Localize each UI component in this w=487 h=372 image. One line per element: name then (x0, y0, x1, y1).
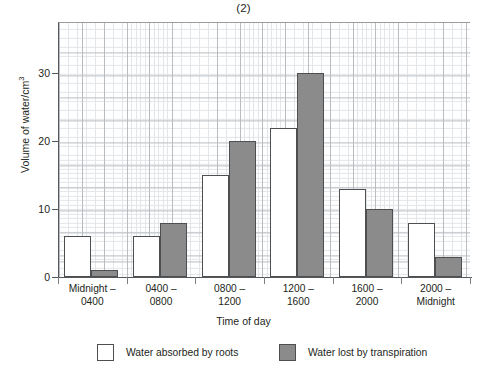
y-axis-tick (52, 209, 59, 210)
x-axis-tick (401, 277, 402, 284)
x-axis-tick (470, 277, 471, 284)
bar-absorbed (202, 175, 229, 277)
y-axis-tick-label: 0 (20, 272, 50, 282)
bar-transpired (435, 257, 462, 277)
bar-transpired (297, 73, 324, 277)
chart-legend: Water absorbed by rootsWater lost by tra… (0, 341, 487, 365)
bar-absorbed (339, 189, 366, 277)
x-axis-category-label: 2000 –Midnight (392, 283, 480, 308)
bar-chart-figure: (2) 0102030 Volume of water/cm3 Time of … (0, 0, 487, 372)
x-axis-tick (264, 277, 265, 284)
legend-swatch-transpired (279, 344, 296, 361)
y-axis-title-text: Volume of water/cm (19, 81, 31, 173)
legend-swatch-absorbed (97, 344, 114, 361)
bar-transpired (160, 223, 187, 277)
x-axis-tick (333, 277, 334, 284)
x-axis-line (58, 277, 472, 278)
bar-transpired (366, 209, 393, 277)
x-axis-tick (58, 277, 59, 284)
legend-item: Water lost by transpiration (279, 341, 427, 363)
bar-transpired (91, 270, 118, 277)
x-axis-title: Time of day (0, 315, 487, 327)
x-axis-category-label-line: 2000 – (392, 283, 480, 296)
bar-transpired (229, 141, 256, 277)
x-axis-tick (127, 277, 128, 284)
bar-absorbed (64, 236, 91, 277)
bar-absorbed (408, 223, 435, 277)
y-axis-tick (52, 141, 59, 142)
legend-item: Water absorbed by roots (97, 341, 238, 363)
legend-label: Water absorbed by roots (126, 347, 238, 358)
legend-label: Water lost by transpiration (308, 347, 427, 358)
bar-absorbed (270, 128, 297, 277)
y-axis-title: Volume of water/cm3 (17, 25, 31, 225)
bar-absorbed (133, 236, 160, 277)
y-axis-tick (52, 73, 59, 74)
x-axis-category-label-line: Midnight (392, 296, 480, 309)
chart-title: (2) (0, 2, 487, 14)
x-axis-tick (195, 277, 196, 284)
y-axis-title-superscript: 3 (17, 77, 26, 81)
